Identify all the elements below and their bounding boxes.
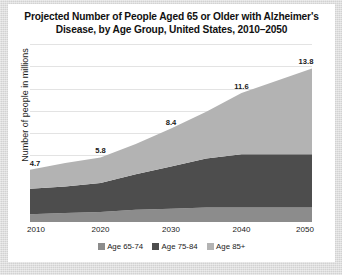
data-label: 4.7 xyxy=(30,159,41,168)
chart-legend: Age 65-74Age 75-84Age 85+ xyxy=(8,242,335,251)
legend-swatch-icon xyxy=(207,243,214,250)
data-label: 11.6 xyxy=(234,82,248,91)
x-tick-2030: 2030 xyxy=(162,225,180,234)
area-chart-svg xyxy=(30,44,312,222)
x-tick-2050: 2050 xyxy=(296,225,314,234)
legend-swatch-icon xyxy=(152,243,159,250)
legend-label: Age 65-74 xyxy=(107,242,143,251)
legend-swatch-icon xyxy=(98,243,105,250)
chart-title-line-2: Disease, by Age Group, United States, 20… xyxy=(16,23,327,36)
plot-area: 4.75.88.411.613.8 xyxy=(30,44,312,222)
chart-card: Projected Number of People Aged 65 or Ol… xyxy=(8,4,335,262)
x-axis-tick-labels: 20102020203020402050 xyxy=(30,225,312,239)
legend-label: Age 85+ xyxy=(216,242,245,251)
y-axis-label: Number of people in millions xyxy=(20,30,30,180)
legend-item[interactable]: Age 65-74 xyxy=(98,242,143,251)
data-label: 13.8 xyxy=(299,57,314,66)
legend-item[interactable]: Age 85+ xyxy=(207,242,246,251)
x-tick-2040: 2040 xyxy=(233,225,251,234)
stacked-area-series xyxy=(30,44,312,222)
chart-title: Projected Number of People Aged 65 or Ol… xyxy=(16,10,327,36)
x-tick-2020: 2020 xyxy=(92,225,110,234)
legend-item[interactable]: Age 75-84 xyxy=(152,242,197,251)
legend-label: Age 75-84 xyxy=(162,242,198,251)
data-label: 8.4 xyxy=(166,118,177,127)
figure-container: Projected Number of People Aged 65 or Ol… xyxy=(0,0,342,275)
chart-title-line-1: Projected Number of People Aged 65 or Ol… xyxy=(16,10,327,23)
x-tick-2010: 2010 xyxy=(27,225,45,234)
data-label: 5.8 xyxy=(95,146,106,155)
